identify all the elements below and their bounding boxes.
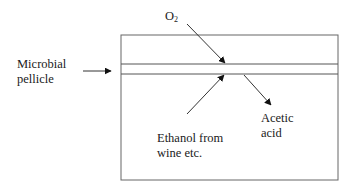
pellicle-diagram: O2 Microbial pellicle Ethanol from wine … [0, 0, 356, 186]
acetic-acid-label: Acetic acid [261, 111, 294, 141]
pellicle-label-line2: pellicle [17, 72, 66, 87]
acetic-acid-arrow [244, 75, 271, 105]
pellicle-label-line1: Microbial [17, 57, 66, 72]
acetic-acid-label-line2: acid [261, 126, 294, 141]
ethanol-label-line1: Ethanol from [157, 131, 223, 146]
oxygen-arrow [187, 24, 225, 63]
ethanol-arrow [187, 75, 224, 114]
acetic-acid-label-line1: Acetic [261, 111, 294, 126]
oxygen-label-subscript: 2 [174, 15, 178, 24]
oxygen-label: O2 [165, 9, 178, 27]
pellicle-label: Microbial pellicle [17, 57, 66, 87]
ethanol-label-line2: wine etc. [157, 146, 223, 161]
vessel-box [121, 35, 338, 180]
ethanol-label: Ethanol from wine etc. [157, 131, 223, 161]
oxygen-label-main: O [165, 9, 174, 23]
